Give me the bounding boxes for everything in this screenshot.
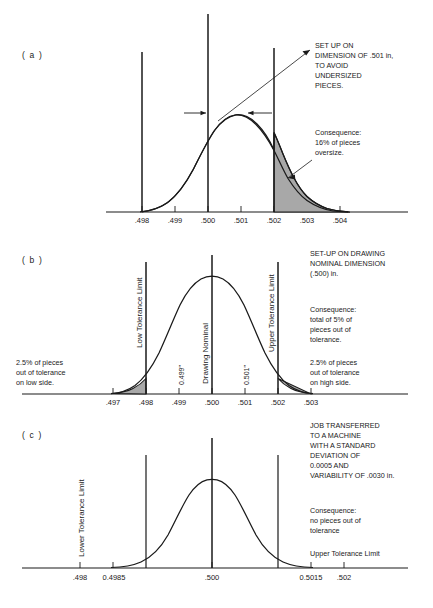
panel-a-arrow-right <box>248 111 272 115</box>
panel-b-tick-500: .500 <box>205 398 220 407</box>
panel-b-tick-503: .503 <box>304 398 319 407</box>
panel-b-upper-tolerance-limit-label: Upper Tolerance Limit <box>267 274 276 352</box>
panel-b-tick-497: .497 <box>106 398 121 407</box>
panel-c-upper-tolerance-limit-label: Upper Tolerance Limit <box>310 549 380 558</box>
panel-a-setup-line-2: DIMENSION OF .501 in, <box>315 51 393 60</box>
panel-c-setup-note: JOB TRANSFERRED TO A MACHINE WITH A STAN… <box>310 421 394 480</box>
panel-b-drawing-nominal-label: Drawing Nominal <box>201 323 210 384</box>
panel-a-arrow-left <box>184 111 206 115</box>
panel-b-consequence-line-3: pieces out of <box>310 325 351 334</box>
panel-b-setup-line-1: SET-UP ON DRAWING <box>310 249 385 258</box>
panel-b-low-note-line-1: 2.5% of pieces <box>16 358 64 367</box>
panel-b-high-side-note: 2.5% of pieces out of tolerance on high … <box>310 358 360 387</box>
panel-a-setup-line-4: UNDERSIZED <box>315 71 362 80</box>
panel-a: ( a ) .498 .499 .500 .501 .502 .503 .504 <box>22 14 408 225</box>
panel-b-high-note-line-2: out of tolerance <box>310 368 360 377</box>
panel-a-consequence-note: Consequence: 16% of pieces oversize. <box>288 128 361 180</box>
panel-a-tick-499: .499 <box>168 216 183 225</box>
process-capability-figure: ( a ) .498 .499 .500 .501 .502 .503 .504 <box>0 0 433 608</box>
panel-b-tick-501: .501 <box>238 398 253 407</box>
panel-c-consequence-line-3: tolerance <box>310 526 340 535</box>
panel-b-low-value-label: 0.499" <box>178 364 185 385</box>
panel-a-setup-line-3: TO AVOID <box>315 61 348 70</box>
panel-c-label: ( c ) <box>22 430 43 440</box>
panel-c-consequence-note: Consequence: no pieces out of tolerance <box>310 506 361 535</box>
panel-c-tick-5015: 0.5015 <box>300 573 323 582</box>
panel-a-setup-line-1: SET UP ON <box>315 41 353 50</box>
panel-b-low-tolerance-limit-label: Low Tolerance Limit <box>135 277 144 348</box>
panel-c-setup-line-6: VARIABILITY OF .0030 in. <box>310 471 394 480</box>
panel-b-consequence-line-1: Consequence: <box>310 305 356 314</box>
panel-b-setup-line-2: NOMINAL DIMENSION <box>310 259 385 268</box>
panel-a-tick-500: .500 <box>201 216 216 225</box>
panel-b-high-value-label: 0.501" <box>243 364 250 385</box>
panel-c-setup-line-2: TO A MACHINE <box>310 431 361 440</box>
panel-b-high-note-line-1: 2.5% of pieces <box>310 358 358 367</box>
panel-b-low-side-note: 2.5% of pieces out of tolerance on low s… <box>16 358 66 387</box>
panel-c-setup-line-4: DEVIATION OF <box>310 451 361 460</box>
panel-c-tick-4985: 0.4985 <box>103 573 126 582</box>
panel-b-consequence-line-2: total of 5% of <box>310 315 352 324</box>
panel-a-consequence-line-1: Consequence: <box>315 128 361 137</box>
panel-b: ( b ) .497 .498 .499 .500 .501 .502 .503 <box>16 249 408 407</box>
panel-a-setup-note: SET UP ON DIMENSION OF .501 in, TO AVOID… <box>315 41 393 90</box>
panel-c-tick-498: .498 <box>73 573 88 582</box>
panel-a-tick-503: .503 <box>300 216 315 225</box>
panel-c-consequence-line-2: no pieces out of <box>310 516 361 525</box>
panel-b-high-note-line-3: on high side. <box>310 378 351 387</box>
panel-b-setup-note: SET-UP ON DRAWING NOMINAL DIMENSION (.50… <box>310 249 385 278</box>
panel-a-tick-502: .502 <box>267 216 282 225</box>
panel-a-tick-501: .501 <box>234 216 249 225</box>
panel-c-tick-500: .500 <box>205 573 220 582</box>
panel-b-tick-498: .498 <box>139 398 154 407</box>
figure-svg: ( a ) .498 .499 .500 .501 .502 .503 .504 <box>0 0 433 608</box>
panel-b-label: ( b ) <box>22 255 43 265</box>
panel-a-label: ( a ) <box>22 50 43 60</box>
panel-b-setup-line-3: (.500) in. <box>310 269 338 278</box>
panel-c-setup-line-3: WITH A STANDARD <box>310 441 375 450</box>
panel-a-consequence-line-2: 16% of pieces <box>315 138 361 147</box>
panel-c-setup-line-5: 0.0005 AND <box>310 461 349 470</box>
panel-c-tick-502: .502 <box>337 573 352 582</box>
panel-c-setup-line-1: JOB TRANSFERRED <box>310 421 380 430</box>
panel-c: ( c ) .498 0.4985 .500 0.5015 .502 Lower… <box>22 421 408 582</box>
panel-a-consequence-line-3: oversize. <box>315 148 344 157</box>
panel-b-consequence-line-4: tolerance. <box>310 335 342 344</box>
panel-b-tick-499: .499 <box>172 398 187 407</box>
panel-b-low-note-line-2: out of tolerance <box>16 368 66 377</box>
panel-a-tick-498: .498 <box>135 216 150 225</box>
panel-b-consequence-note: Consequence: total of 5% of pieces out o… <box>310 305 356 344</box>
panel-c-lower-tolerance-limit-label: Lower Tolerance Limit <box>77 479 86 557</box>
panel-a-setup-line-5: PIECES. <box>315 81 343 90</box>
panel-a-setup-leader <box>218 50 310 121</box>
panel-b-low-note-line-3: on low side. <box>16 378 54 387</box>
panel-c-consequence-line-1: Consequence: <box>310 506 356 515</box>
panel-a-tick-504: .504 <box>333 216 348 225</box>
panel-b-tick-502: .502 <box>271 398 286 407</box>
